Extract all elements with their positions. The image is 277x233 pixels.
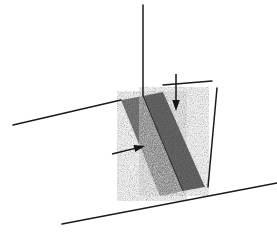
figure-canvas: [0, 0, 277, 233]
figure-root: [0, 0, 277, 233]
